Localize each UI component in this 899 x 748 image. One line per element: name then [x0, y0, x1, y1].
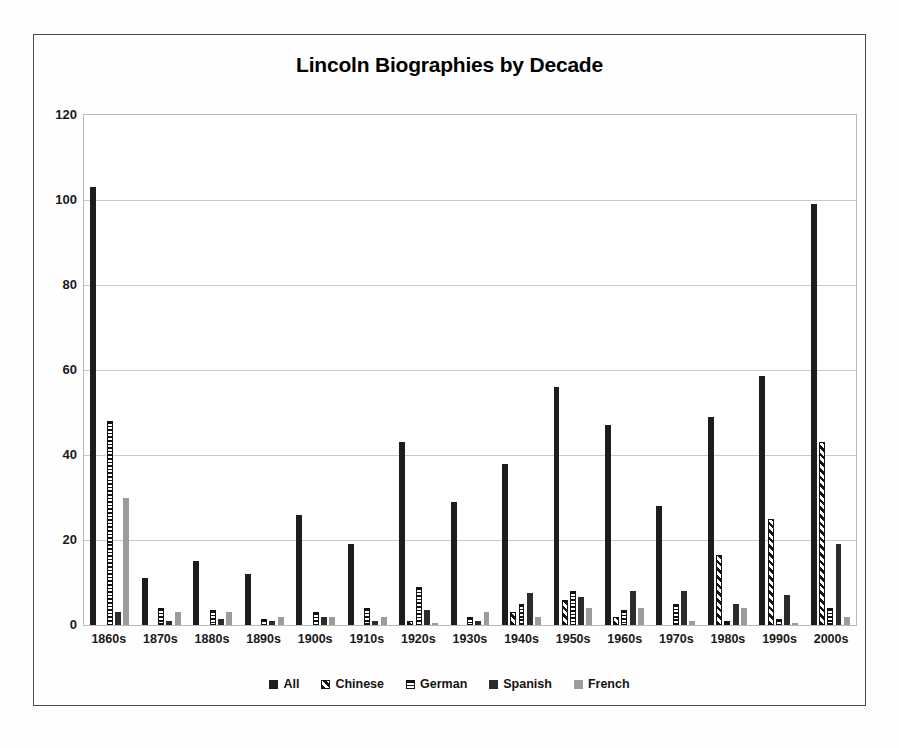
x-axis-tick-label: 1960s [599, 632, 651, 654]
legend-item-spanish[interactable]: Spanish [489, 677, 552, 691]
bar-group [187, 115, 238, 625]
bar-spanish-1990s [784, 595, 790, 625]
x-axis-tick-label: 1940s [496, 632, 548, 654]
bar-german-1960s [621, 610, 627, 625]
bar-german-1940s [519, 604, 525, 625]
bar-chinese-1990s [768, 519, 774, 625]
legend-swatch-chinese [321, 680, 330, 689]
bar-french-1960s [638, 608, 644, 625]
bar-german-1990s [776, 619, 782, 625]
bar-german-1900s [313, 612, 319, 625]
legend-label-german: German [420, 677, 467, 691]
bar-spanish-1910s [372, 621, 378, 625]
bar-french-1920s [432, 623, 438, 625]
bar-group [290, 115, 341, 625]
x-axis-tick-label: 2000s [805, 632, 857, 654]
bar-all-1890s [245, 574, 251, 625]
legend-swatch-french [574, 680, 583, 689]
bar-group [805, 115, 856, 625]
bar-group [650, 115, 701, 625]
chart-frame: Lincoln Biographies by Decade 0204060801… [33, 34, 866, 706]
legend-swatch-all [269, 680, 278, 689]
bar-all-2000s [811, 204, 817, 625]
bar-spanish-1900s [321, 617, 327, 626]
x-axis-tick-label: 1900s [289, 632, 341, 654]
bar-all-1990s [759, 376, 765, 625]
bar-french-1930s [484, 612, 490, 625]
bar-german-1970s [673, 604, 679, 625]
bar-spanish-1920s [424, 610, 430, 625]
y-axis-tick-label: 60 [37, 362, 77, 377]
bar-group [341, 115, 392, 625]
bar-french-2000s [844, 617, 850, 626]
x-axis-tick-label: 1950s [547, 632, 599, 654]
x-axis-tick-label: 1890s [238, 632, 290, 654]
y-axis-tick-label: 40 [37, 447, 77, 462]
bar-german-2000s [827, 608, 833, 625]
bar-german-1950s [570, 591, 576, 625]
bar-group [547, 115, 598, 625]
legend-swatch-german [406, 680, 415, 689]
bar-chinese-2000s [819, 442, 825, 625]
legend-label-all: All [283, 677, 299, 691]
bar-chinese-1980s [716, 555, 722, 625]
bar-spanish-1930s [475, 621, 481, 625]
legend-item-all[interactable]: All [269, 677, 299, 691]
bar-all-1870s [142, 578, 148, 625]
legend-item-german[interactable]: German [406, 677, 467, 691]
bar-german-1910s [364, 608, 370, 625]
chart-legend: AllChineseGermanSpanishFrench [34, 677, 865, 691]
x-axis: 1860s1870s1880s1890s1900s1910s1920s1930s… [83, 632, 857, 654]
chart-page: Lincoln Biographies by Decade 0204060801… [0, 0, 899, 748]
bar-spanish-1970s [681, 591, 687, 625]
bar-french-1860s [123, 498, 129, 626]
plot-area [83, 114, 857, 626]
bar-all-1860s [90, 187, 96, 625]
legend-label-spanish: Spanish [503, 677, 552, 691]
bar-french-1900s [329, 617, 335, 626]
bar-french-1980s [741, 608, 747, 625]
x-axis-tick-label: 1870s [135, 632, 187, 654]
bar-group [238, 115, 289, 625]
legend-label-french: French [588, 677, 630, 691]
bar-german-1920s [416, 587, 422, 625]
bar-group [753, 115, 804, 625]
legend-item-chinese[interactable]: Chinese [321, 677, 384, 691]
bar-german-1860s [107, 421, 113, 625]
bar-all-1980s [708, 417, 714, 625]
bars-layer [84, 115, 856, 625]
bar-all-1970s [656, 506, 662, 625]
bar-french-1880s [226, 612, 232, 625]
x-axis-tick-label: 1860s [83, 632, 135, 654]
legend-item-french[interactable]: French [574, 677, 630, 691]
bar-spanish-2000s [836, 544, 842, 625]
bar-german-1980s [724, 621, 730, 625]
bar-all-1940s [502, 464, 508, 626]
bar-french-1990s [792, 623, 798, 625]
bar-french-1910s [381, 617, 387, 626]
bar-german-1930s [467, 617, 473, 626]
x-axis-tick-label: 1990s [754, 632, 806, 654]
x-axis-tick-label: 1910s [341, 632, 393, 654]
bar-spanish-1890s [269, 621, 275, 625]
bar-spanish-1950s [578, 597, 584, 625]
bar-german-1870s [158, 608, 164, 625]
bar-chinese-1920s [407, 621, 413, 625]
bar-group [496, 115, 547, 625]
y-axis-tick-label: 0 [37, 617, 77, 632]
bar-chinese-1950s [562, 600, 568, 626]
bar-group [702, 115, 753, 625]
chart-title: Lincoln Biographies by Decade [34, 53, 865, 77]
bar-spanish-1960s [630, 591, 636, 625]
y-axis-tick-label: 80 [37, 277, 77, 292]
bar-group [599, 115, 650, 625]
bar-french-1970s [689, 621, 695, 625]
bar-spanish-1860s [115, 612, 121, 625]
bar-all-1920s [399, 442, 405, 625]
legend-swatch-spanish [489, 680, 498, 689]
bar-group [84, 115, 135, 625]
bar-spanish-1940s [527, 593, 533, 625]
bar-all-1930s [451, 502, 457, 625]
bar-all-1960s [605, 425, 611, 625]
bar-group [444, 115, 495, 625]
